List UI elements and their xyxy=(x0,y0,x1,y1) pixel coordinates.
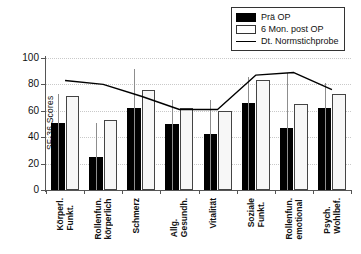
y-tick-label: 60 xyxy=(28,106,39,116)
x-axis-label: Psych.Wohlbef. xyxy=(323,198,342,234)
x-axis-label: SozialeFunkt. xyxy=(247,198,266,227)
x-tick xyxy=(84,190,85,194)
x-axis-label: Schmerz xyxy=(132,198,142,233)
chart-legend: Prä OP6 Mon. post OPDt. Normstichprobe xyxy=(231,7,345,51)
legend-item: Prä OP xyxy=(236,11,339,23)
x-tick xyxy=(237,190,238,194)
legend-label: Dt. Normstichprobe xyxy=(261,36,339,46)
legend-swatch-line-icon xyxy=(236,37,256,46)
y-tick-label: 0 xyxy=(33,185,39,195)
legend-item: 6 Mon. post OP xyxy=(236,23,339,35)
x-axis-label: Rollenfun.emotional xyxy=(285,198,304,240)
x-axis-label: Rollenfun.körperlich xyxy=(94,198,113,240)
plot-area: 100806040200 SF-36 Scores xyxy=(46,58,351,190)
y-tick-label: 40 xyxy=(28,132,39,142)
x-tick xyxy=(275,190,276,194)
x-tick xyxy=(122,190,123,194)
y-tick-label: 100 xyxy=(22,53,39,63)
legend-swatch-post-icon xyxy=(236,25,256,34)
norm-line-series xyxy=(46,58,351,190)
y-tick-label: 20 xyxy=(28,159,39,169)
legend-label: Prä OP xyxy=(261,12,291,22)
sf36-bar-chart: 100806040200 SF-36 Scores Körperl.Funkt.… xyxy=(0,0,361,254)
x-axis-label: Allg.Gesundh. xyxy=(170,198,189,237)
y-tick-label: 80 xyxy=(28,79,39,89)
legend-item: Dt. Normstichprobe xyxy=(236,35,339,47)
x-tick xyxy=(313,190,314,194)
x-axis-label: Körperl.Funkt. xyxy=(56,198,75,231)
x-tick xyxy=(46,190,47,194)
x-tick xyxy=(351,190,352,194)
x-tick xyxy=(199,190,200,194)
x-axis-label: Vitalität xyxy=(209,198,219,229)
legend-label: 6 Mon. post OP xyxy=(261,24,324,34)
x-tick xyxy=(160,190,161,194)
legend-swatch-pre-icon xyxy=(236,13,256,22)
